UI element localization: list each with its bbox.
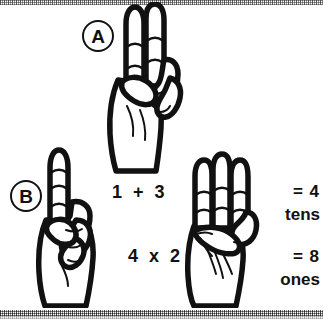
label-badge-a: A <box>82 20 114 52</box>
hand-sign-three <box>182 150 264 308</box>
scan-band-bottom-fade <box>0 316 323 319</box>
result-tens-unit: tens <box>262 206 320 223</box>
hand-sign-one <box>32 146 116 308</box>
result-tens-value: = 4 <box>262 183 320 200</box>
result-ones-unit: ones <box>262 271 320 288</box>
equation-bottom: 4 x 2 <box>128 247 183 265</box>
equation-top: 1 + 3 <box>112 183 168 201</box>
result-ones-value: = 8 <box>262 248 320 265</box>
illustration-page: A B 1 + 3 4 x 2 = 4 tens = 8 ones <box>0 0 323 322</box>
label-badge-b: B <box>10 180 42 212</box>
